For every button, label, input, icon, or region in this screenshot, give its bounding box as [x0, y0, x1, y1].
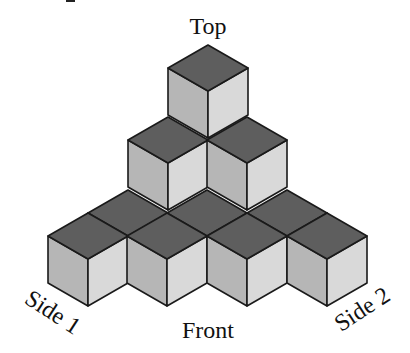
cube-pyramid-diagram [0, 0, 410, 353]
label-front: Front [182, 318, 234, 342]
label-top: Top [190, 14, 227, 38]
